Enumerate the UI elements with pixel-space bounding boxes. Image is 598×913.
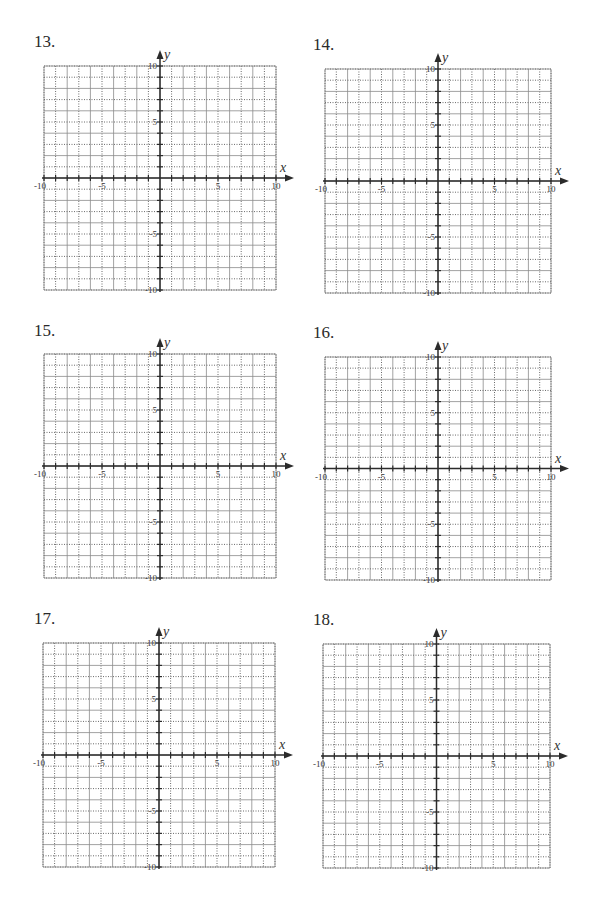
coordinate-grid: -10-5510105-5-10xy	[0, 0, 598, 913]
y-tick-label: 10	[425, 639, 435, 649]
y-tick-label: -5	[426, 807, 434, 817]
x-tick-label: 5	[491, 759, 496, 769]
x-axis-arrow-icon	[559, 753, 568, 760]
x-axis-label: x	[553, 738, 561, 753]
x-tick-label: -5	[376, 759, 384, 769]
y-axis-arrow-icon	[433, 628, 440, 637]
y-tick-label: 5	[429, 695, 434, 705]
axes	[321, 628, 568, 870]
y-axis-label: y	[439, 625, 448, 640]
y-tick-label: -10	[422, 863, 434, 873]
x-tick-label: 10	[546, 759, 556, 769]
x-tick-label: -10	[313, 759, 325, 769]
